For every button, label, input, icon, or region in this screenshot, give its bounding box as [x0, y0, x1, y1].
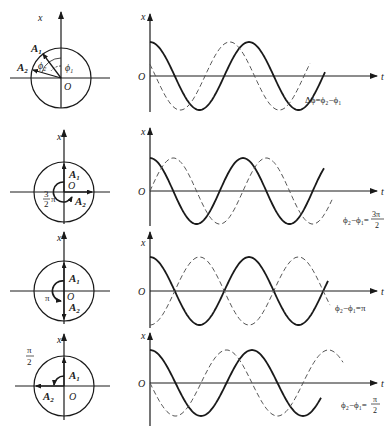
origin-label: O	[69, 391, 76, 402]
origin-label: O	[138, 186, 145, 197]
svg-text:π: π	[27, 345, 32, 355]
svg-text:π: π	[373, 395, 377, 404]
A1-label: A1	[68, 369, 80, 383]
phase-caption: ϕ₂−ϕ₁= 3π 2	[343, 210, 384, 230]
x-axis-label: x	[140, 11, 146, 22]
angle-label-pi: π	[45, 293, 50, 303]
waveform-plot-4: x t O ϕ₂−ϕ₁= π 2	[138, 330, 384, 426]
phase-difference-diagram: x A1 A2 ϕ2 ϕ1 O x t O Δϕ=ϕ₂−ϕ₁ x A	[0, 0, 390, 434]
phasor-diagram-2: x A1 A2 O 3 2 π	[10, 130, 110, 224]
x-axis-label: x	[56, 232, 62, 243]
origin-label: O	[64, 81, 71, 92]
origin-label: O	[138, 71, 145, 82]
svg-text:2: 2	[44, 199, 49, 209]
waveform-plot-1: x t O Δϕ=ϕ₂−ϕ₁	[138, 11, 384, 112]
phase-caption: ϕ₂−ϕ₁= π 2	[341, 395, 380, 415]
svg-text:π: π	[51, 194, 56, 204]
row-pi: x A1 A2 O π x t O ϕ₂−ϕ₁=π	[10, 232, 384, 328]
origin-label: O	[138, 286, 145, 297]
A1-label: A1	[68, 272, 80, 286]
phase-caption: ϕ₂−ϕ₁=π	[335, 303, 366, 313]
svg-text:2: 2	[375, 221, 379, 230]
A1-label: A1	[30, 42, 42, 56]
A2-label: A2	[68, 301, 80, 315]
t-axis-label: t	[381, 378, 384, 389]
A2-label: A2	[74, 195, 86, 209]
angle-arc	[54, 376, 64, 385]
phasor-diagram-3: x A1 A2 O π	[10, 232, 110, 324]
origin-label: O	[138, 378, 145, 389]
x-axis-label: x	[140, 126, 146, 137]
phasor-diagram-1: x A1 A2 ϕ2 ϕ1 O	[10, 12, 110, 108]
phase-caption: Δϕ=ϕ₂−ϕ₁	[305, 95, 341, 105]
x-axis-label: x	[56, 131, 62, 142]
x-axis-label: x	[37, 12, 43, 23]
t-axis-label: t	[381, 186, 384, 197]
phi1-label: ϕ1	[65, 62, 73, 74]
angle-label-half-pi: π 2	[26, 345, 34, 367]
origin-label: O	[67, 291, 74, 302]
row-half-pi: x A1 A2 O π 2 x t O ϕ₂−ϕ₁= π 2	[15, 330, 384, 426]
x-axis-label: x	[140, 330, 146, 341]
phasor-A2-vector	[33, 70, 61, 78]
phi2-label: ϕ2	[38, 60, 46, 72]
x-axis-label: x	[56, 334, 62, 345]
svg-text:3: 3	[44, 189, 49, 199]
row-general: x A1 A2 ϕ2 ϕ1 O x t O Δϕ=ϕ₂−ϕ₁	[10, 11, 384, 112]
waveform-plot-2: x t O ϕ₂−ϕ₁= 3π 2	[138, 126, 384, 230]
origin-label: O	[68, 180, 75, 191]
t-axis-label: t	[381, 71, 384, 82]
waveform-plot-3: x t O ϕ₂−ϕ₁=π	[138, 232, 384, 328]
svg-text:3π: 3π	[372, 210, 380, 219]
svg-text:2: 2	[373, 406, 377, 415]
x-axis-label: x	[140, 237, 146, 248]
A2-label: A2	[42, 390, 54, 404]
svg-text:ϕ₂−ϕ₁=: ϕ₂−ϕ₁=	[343, 215, 369, 225]
t-axis-label: t	[381, 286, 384, 297]
svg-text:2: 2	[27, 357, 32, 367]
svg-text:ϕ₂−ϕ₁=: ϕ₂−ϕ₁=	[341, 400, 367, 410]
phasor-diagram-4: x A1 A2 O π 2	[15, 334, 110, 420]
row-three-half-pi: x A1 A2 O 3 2 π x t O ϕ₂−ϕ₁= 3π 2	[10, 126, 384, 230]
A2-label: A2	[16, 61, 28, 75]
